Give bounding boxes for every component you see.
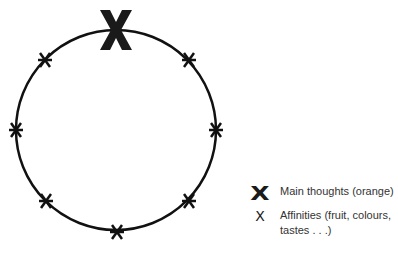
legend-label-main: Main thoughts (orange) <box>280 184 398 199</box>
legend-label-affinities: Affinities (fruit, colours, tastes . . .… <box>280 208 398 238</box>
mind-map-circle <box>0 0 240 256</box>
legend-item-affinities: X Affinities (fruit, colours, tastes . .… <box>248 208 398 238</box>
affinity-markers <box>9 53 223 239</box>
affinity-legend-icon: X <box>248 208 272 224</box>
main-thought-legend-icon: X <box>245 184 275 202</box>
legend-item-main: X Main thoughts (orange) <box>248 184 398 202</box>
